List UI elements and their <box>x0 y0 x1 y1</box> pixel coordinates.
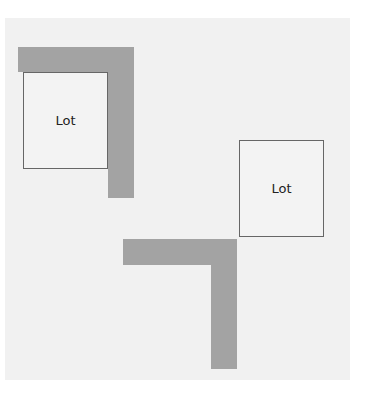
lot-label: Lot <box>55 113 75 128</box>
lot-top-left: Lot <box>23 72 108 169</box>
road-top-left-vertical <box>108 47 134 198</box>
lot-right: Lot <box>239 140 324 237</box>
lot-label: Lot <box>271 181 291 196</box>
road-bottom-vertical <box>211 239 237 369</box>
